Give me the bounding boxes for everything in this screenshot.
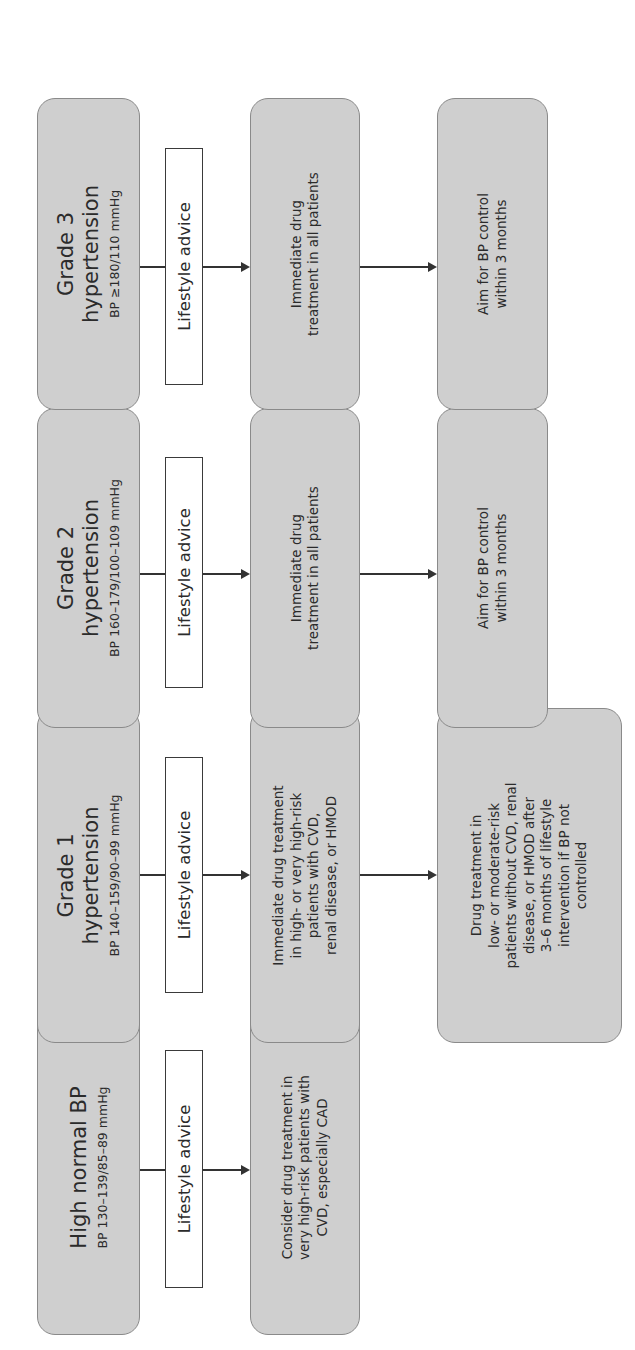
category-box-high-normal: High normal BP BP 130–139/85–89 mmHg (37, 1000, 140, 1335)
followup-box-grade-1: Drug treatment in low- or moderate-risk … (437, 708, 622, 1043)
arrowhead-icon (241, 262, 250, 272)
category-title: High normal BP (67, 1086, 92, 1248)
category-range: BP ≥180/110 mmHg (106, 190, 123, 318)
lifestyle-advice-label: Lifestyle advice (175, 811, 194, 940)
category-box-grade-3: Grade 3 hypertension BP ≥180/110 mmHg (37, 98, 140, 410)
arrowhead-icon (241, 870, 250, 880)
lifestyle-advice-box-high-normal: Lifestyle advice (165, 1050, 203, 1288)
category-title: Grade 1 hypertension (54, 806, 104, 944)
lifestyle-advice-label: Lifestyle advice (175, 508, 194, 637)
category-range: BP 130–139/85–89 mmHg (94, 1087, 111, 1249)
treatment-text: Consider drug treatment in very high-ris… (279, 1067, 332, 1268)
treatment-box-grade-3: Immediate drug treatment in all patients (250, 98, 360, 410)
lifestyle-advice-box-grade-1: Lifestyle advice (165, 757, 203, 993)
arrowhead-icon (428, 870, 437, 880)
lifestyle-advice-label: Lifestyle advice (175, 1105, 194, 1234)
category-range: BP 140–159/90–99 mmHg (106, 795, 123, 957)
lifestyle-advice-box-grade-3: Lifestyle advice (165, 148, 203, 385)
category-title: Grade 2 hypertension (54, 499, 104, 637)
followup-text: Aim for BP control within 3 months (475, 185, 510, 323)
followup-box-grade-2: Aim for BP control within 3 months (437, 408, 548, 728)
followup-text: Aim for BP control within 3 months (475, 499, 510, 637)
treatment-box-grade-1: Immediate drug treatment in high- or ver… (250, 708, 360, 1043)
lifestyle-advice-label: Lifestyle advice (175, 202, 194, 331)
arrowhead-icon (241, 1165, 250, 1175)
hypertension-flowchart: High normal BP BP 130–139/85–89 mmHg Lif… (0, 0, 635, 1350)
treatment-text: Immediate drug treatment in all patients (288, 478, 323, 658)
followup-text: Drug treatment in low- or moderate-risk … (468, 774, 591, 976)
treatment-text: Immediate drug treatment in high- or ver… (270, 777, 340, 973)
treatment-box-high-normal: Consider drug treatment in very high-ris… (250, 1000, 360, 1335)
category-title: Grade 3 hypertension (54, 185, 104, 323)
category-box-grade-2: Grade 2 hypertension BP 160–179/100–109 … (37, 408, 140, 728)
category-range: BP 160–179/100–109 mmHg (106, 479, 123, 657)
arrowhead-icon (241, 569, 250, 579)
followup-box-grade-3: Aim for BP control within 3 months (437, 98, 548, 410)
arrowhead-icon (428, 262, 437, 272)
treatment-box-grade-2: Immediate drug treatment in all patients (250, 408, 360, 728)
treatment-text: Immediate drug treatment in all patients (288, 164, 323, 344)
category-box-grade-1: Grade 1 hypertension BP 140–159/90–99 mm… (37, 708, 140, 1043)
arrowhead-icon (428, 569, 437, 579)
lifestyle-advice-box-grade-2: Lifestyle advice (165, 457, 203, 688)
